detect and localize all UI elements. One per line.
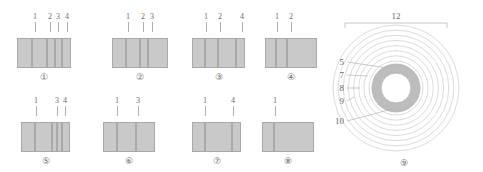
bar-group-labels: 1234 bbox=[17, 12, 71, 38]
bar-label: 1 bbox=[31, 96, 41, 105]
bar-label-leader-line bbox=[152, 22, 153, 32]
bar-group-labels: 13 bbox=[103, 96, 155, 122]
bar-label: 1 bbox=[30, 12, 40, 21]
bar-segment bbox=[21, 122, 35, 152]
bar-segment bbox=[276, 38, 287, 68]
bar-segment bbox=[287, 38, 317, 68]
bar-group: 1⑧ bbox=[262, 96, 314, 167]
bar-group-caption: ③ bbox=[192, 71, 245, 83]
circle-diagram-caption: ⑨ bbox=[326, 158, 481, 168]
bar-label: 4 bbox=[237, 12, 247, 21]
bar-label-leader-line bbox=[205, 106, 206, 116]
circle-callout-label: 10 bbox=[335, 116, 345, 126]
center-ring-inner bbox=[381, 73, 411, 103]
bar-segment bbox=[148, 38, 168, 68]
bar-segment bbox=[117, 122, 136, 152]
bar-label-leader-line bbox=[58, 22, 59, 32]
bar-group: 123② bbox=[112, 12, 168, 83]
bar-stack bbox=[265, 38, 317, 68]
concentric-circle-diagram: 12 578910 ⑨ bbox=[326, 4, 481, 170]
bar-group-caption: ⑤ bbox=[21, 155, 70, 167]
bar-group-caption: ① bbox=[17, 71, 71, 83]
bar-segment bbox=[192, 38, 205, 68]
span-label: 12 bbox=[392, 11, 401, 21]
bar-segment bbox=[62, 122, 70, 152]
bar-segment bbox=[205, 122, 232, 152]
bar-group-labels: 134 bbox=[21, 96, 70, 122]
bar-label-leader-line bbox=[275, 106, 276, 116]
circle-callout-label: 9 bbox=[340, 96, 345, 106]
bar-segment bbox=[126, 38, 140, 68]
bar-label: 4 bbox=[228, 96, 238, 105]
bar-segment bbox=[232, 122, 241, 152]
bar-group: 134⑤ bbox=[21, 96, 70, 167]
bar-label-leader-line bbox=[291, 22, 292, 32]
circle-callout-leader-line bbox=[347, 97, 354, 101]
bar-segment bbox=[136, 122, 155, 152]
bar-group: 124③ bbox=[192, 12, 245, 83]
bar-label: 3 bbox=[147, 12, 157, 21]
bar-label-leader-line bbox=[57, 106, 58, 116]
bar-stack bbox=[17, 38, 71, 68]
bar-group-caption: ⑦ bbox=[192, 155, 241, 167]
bar-label-leader-line bbox=[206, 22, 207, 32]
bar-group: 14⑦ bbox=[192, 96, 241, 167]
bar-group: 12④ bbox=[265, 12, 317, 83]
bar-stack bbox=[192, 122, 241, 152]
bar-segment bbox=[218, 38, 236, 68]
bar-label: 4 bbox=[60, 96, 70, 105]
bar-segment bbox=[262, 122, 274, 152]
circle-callout-label: 8 bbox=[340, 83, 345, 93]
bar-group: 1234① bbox=[17, 12, 71, 83]
bar-label: 4 bbox=[62, 12, 72, 21]
bar-group-labels: 12 bbox=[265, 12, 317, 38]
bar-stack bbox=[103, 122, 155, 152]
bar-segment bbox=[112, 38, 126, 68]
bar-group: 13⑥ bbox=[103, 96, 155, 167]
bar-group-caption: ④ bbox=[265, 71, 317, 83]
bar-segment bbox=[265, 38, 276, 68]
bar-segment bbox=[205, 38, 218, 68]
bar-label: 2 bbox=[286, 12, 296, 21]
bar-segment bbox=[140, 38, 148, 68]
bar-segment bbox=[274, 122, 314, 152]
bar-stack bbox=[112, 38, 168, 68]
bar-stack bbox=[21, 122, 70, 152]
bar-segment bbox=[62, 38, 71, 68]
bar-segment bbox=[32, 38, 47, 68]
bar-label: 3 bbox=[133, 96, 143, 105]
bar-segment bbox=[192, 122, 205, 152]
bar-label: 1 bbox=[201, 12, 211, 21]
bar-label: 2 bbox=[215, 12, 225, 21]
bar-segment bbox=[17, 38, 32, 68]
bar-label-leader-line bbox=[143, 22, 144, 32]
span-bracket bbox=[345, 23, 447, 28]
bar-label: 1 bbox=[200, 96, 210, 105]
bar-label-leader-line bbox=[220, 22, 221, 32]
bar-segment bbox=[47, 38, 55, 68]
bar-segment bbox=[55, 38, 62, 68]
bar-stack bbox=[192, 38, 245, 68]
bar-segment bbox=[236, 38, 245, 68]
bar-label-leader-line bbox=[50, 22, 51, 32]
bar-group-labels: 124 bbox=[192, 12, 245, 38]
bar-group-caption: ⑧ bbox=[262, 155, 314, 167]
bar-group-labels: 14 bbox=[192, 96, 241, 122]
bar-group-caption: ② bbox=[112, 71, 168, 83]
bar-group-labels: 1 bbox=[262, 96, 314, 122]
bar-label-leader-line bbox=[128, 22, 129, 32]
bar-label: 1 bbox=[272, 12, 282, 21]
circle-callout-label: 7 bbox=[340, 70, 345, 80]
bar-group-labels: 123 bbox=[112, 12, 168, 38]
bar-group-caption: ⑥ bbox=[103, 155, 155, 167]
bar-segment bbox=[35, 122, 52, 152]
bar-label-leader-line bbox=[138, 106, 139, 116]
bar-label-leader-line bbox=[242, 22, 243, 32]
bar-stack bbox=[262, 122, 314, 152]
bar-label-leader-line bbox=[117, 106, 118, 116]
bar-label-leader-line bbox=[67, 22, 68, 32]
bar-label: 1 bbox=[270, 96, 280, 105]
bar-label-leader-line bbox=[36, 106, 37, 116]
circle-diagram-svg: 12 578910 bbox=[326, 4, 481, 170]
bar-label: 1 bbox=[123, 12, 133, 21]
